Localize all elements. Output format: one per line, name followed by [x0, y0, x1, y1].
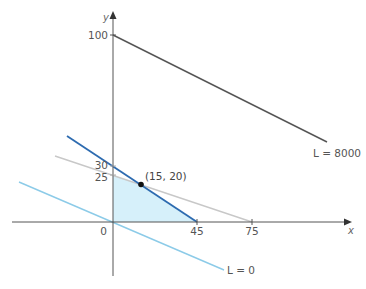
linear-programming-graph: y x 100 30 25 0 45 75 (15, 20) L = 8000 … [0, 0, 366, 289]
y-axis-arrow-icon [110, 11, 117, 19]
optimum-point [138, 182, 144, 188]
y-tick-label-25: 25 [95, 171, 108, 183]
line-L8000-label: L = 8000 [313, 147, 361, 159]
feasible-region [113, 175, 197, 222]
y-axis-label: y [102, 12, 110, 23]
x-axis-label: x [347, 225, 354, 236]
x-tick-label-45: 45 [190, 225, 203, 237]
optimum-point-label: (15, 20) [145, 170, 187, 182]
x-tick-label-75: 75 [245, 225, 258, 237]
line-L0-label: L = 0 [227, 264, 255, 276]
line-L8000 [113, 35, 327, 142]
origin-label: 0 [100, 225, 107, 237]
y-tick-label-100: 100 [88, 29, 108, 41]
y-tick-label-30: 30 [95, 159, 108, 171]
